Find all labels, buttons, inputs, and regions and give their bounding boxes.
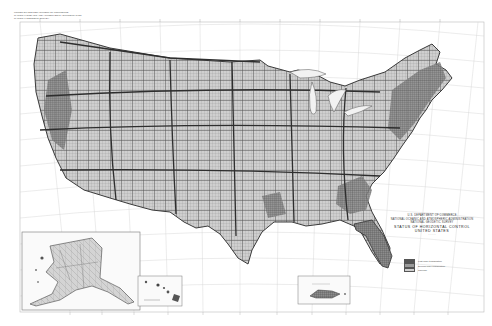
legend-label: First-order triangulation (418, 260, 442, 262)
legend-label: Second-order triangulation (418, 265, 445, 267)
bottom-ticks (70, 312, 448, 315)
title-block: U.S. DEPARTMENT OF COMMERCE NATIONAL OCE… (380, 214, 484, 237)
map-sheet: UNITED STATES DEPARTMENT OF COMMERCE NAT… (0, 0, 492, 326)
legend-item: Second-order triangulation (404, 264, 484, 268)
legend: First-order triangulation Second-order t… (404, 259, 484, 273)
map-canvas (0, 0, 492, 326)
date-line: · · · · (380, 234, 484, 238)
border-ticks (40, 19, 440, 22)
hawaii-inset (138, 276, 182, 306)
puerto-rico-inset (298, 276, 350, 304)
legend-swatch-icon (404, 268, 415, 273)
bottom-caption: · · · · · · · · (16, 314, 26, 316)
legend-item: First-order triangulation (404, 259, 484, 263)
bottom-right-caption: · · · · · (442, 314, 448, 316)
alaska-inset (22, 232, 140, 310)
header-note: UNITED STATES DEPARTMENT OF COMMERCE NAT… (14, 12, 82, 20)
header-note-line: NATIONAL GEODETIC SURVEY (14, 18, 82, 21)
legend-label: Traverse (418, 269, 427, 271)
legend-item: Traverse (404, 268, 484, 272)
